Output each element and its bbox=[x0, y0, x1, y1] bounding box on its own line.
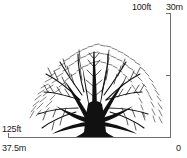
tree-silhouette bbox=[30, 44, 162, 137]
vertical-axis-top-tick bbox=[166, 13, 171, 14]
origin-label: 0 bbox=[176, 143, 181, 153]
vertical-axis-line bbox=[170, 13, 171, 138]
vertical-axis-mid-tick bbox=[166, 75, 170, 76]
horizontal-axis-line bbox=[8, 137, 171, 138]
width-label-imperial: 125ft bbox=[2, 124, 21, 134]
tree-scale-figure: 100ft 30m 125ft 37.5m 0 bbox=[0, 0, 187, 158]
tree-illustration bbox=[0, 0, 187, 158]
height-label-metric: 30m bbox=[166, 2, 183, 12]
height-label-imperial: 100ft bbox=[132, 2, 151, 12]
width-label-metric: 37.5m bbox=[2, 143, 26, 153]
